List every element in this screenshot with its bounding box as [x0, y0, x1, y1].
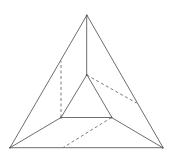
inner-triangle [61, 75, 112, 118]
pyramid-diagram [0, 0, 174, 160]
connecting-edges [10, 16, 163, 148]
vertex-inner-top [86, 74, 88, 76]
edge-bottom-right [112, 118, 163, 148]
vertex-outer-bottom-left [9, 147, 11, 149]
vertex-inner-bottom-right [111, 117, 113, 119]
vertex-inner-bottom-left [60, 117, 62, 119]
vertex-outer-top [86, 15, 88, 17]
inner-triangle-outline [61, 75, 112, 118]
dashed-edge-bottom [63, 118, 112, 148]
vertex-outer-bottom-right [162, 147, 164, 149]
dashed-edges [61, 61, 137, 148]
edge-bottom-left [10, 118, 61, 148]
